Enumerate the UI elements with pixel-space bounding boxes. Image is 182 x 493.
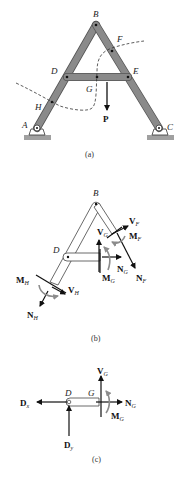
member-hb-outline (50, 202, 100, 285)
panel-c: D G VG NG MG Dx Dy (c) (20, 366, 137, 464)
label-mg-c: MG (111, 411, 125, 422)
label-g-c: G (88, 388, 95, 398)
label-a: A (21, 120, 28, 130)
label-vg-c: VG (97, 366, 109, 377)
pin-d-fbd (67, 400, 71, 404)
label-d-fbd: D (52, 245, 60, 255)
label-b: B (93, 9, 99, 19)
label-b-fbd: B (93, 188, 99, 198)
label-d: D (50, 66, 58, 76)
label-vh: VH (68, 285, 80, 296)
label-mf: MF (129, 231, 142, 242)
label-f: F (116, 34, 123, 44)
label-dy: Dy (64, 440, 74, 451)
label-ng: NG (117, 264, 129, 275)
ground-right (147, 135, 174, 140)
caption-b: (b) (91, 334, 101, 343)
label-g: G (86, 84, 93, 94)
label-dx: Dx (20, 398, 30, 409)
label-vg: VG (97, 227, 109, 238)
label-nh: NH (27, 310, 39, 321)
panel-b: B D VF MF VG NG NF MG MH VH NH (b) (16, 188, 147, 343)
caption-c: (c) (92, 455, 101, 464)
moment-mg-arrow (104, 247, 110, 270)
figure-canvas: P B F D E G H A C (a) B (0, 0, 182, 493)
label-h: H (34, 102, 42, 112)
label-e: E (132, 66, 139, 76)
label-mh: MH (16, 275, 30, 286)
pin-e (127, 76, 130, 79)
panel-a: P B F D E G H A C (a) (16, 9, 174, 159)
label-mg: MG (102, 273, 116, 284)
label-d-c: D (64, 388, 72, 398)
label-ng-c: NG (125, 398, 137, 409)
ground-left (24, 135, 51, 140)
point-f (111, 50, 114, 53)
load-p-label: P (103, 114, 109, 124)
caption-a: (a) (85, 150, 94, 159)
label-vf: VF (129, 216, 140, 227)
label-nf: NF (136, 273, 147, 284)
pin-d (66, 76, 69, 79)
pin-b (95, 24, 98, 27)
label-c: C (167, 122, 174, 132)
